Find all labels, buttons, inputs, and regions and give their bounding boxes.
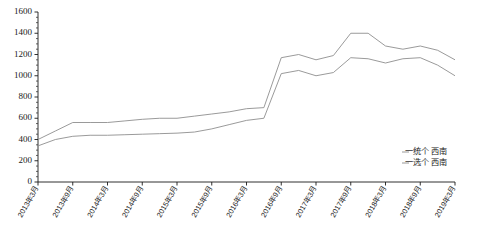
x-tick-label: 2013年9月 [50, 185, 75, 219]
y-tick-label: 600 [19, 112, 33, 122]
chart-canvas: 16001400120010008006004002000 2013年3月201… [0, 0, 491, 249]
series-lines [38, 33, 455, 146]
x-axis: 2013年3月2013年9月2014年3月2014年9月2015年3月2015年… [16, 182, 458, 219]
y-axis: 16001400120010008006004002000 [14, 6, 38, 186]
x-tick-label: 2018年9月 [398, 185, 423, 219]
x-tick-label: 2017年3月 [294, 185, 319, 219]
x-tick-label: 2015年3月 [155, 185, 180, 219]
x-tick-label: 2017年9月 [328, 185, 353, 219]
x-tick-label: 2014年3月 [85, 185, 110, 219]
x-tick-label: 2016年9月 [259, 185, 284, 219]
legend-label-0: 一统个 西南 [405, 146, 447, 156]
x-tick-label: 2018年3月 [363, 185, 388, 219]
y-tick-label: 1000 [14, 70, 33, 80]
chart-legend: 一统个 西南一选个 西南 [402, 146, 447, 167]
series-line-0 [38, 33, 455, 139]
y-tick-label: 0 [28, 176, 33, 186]
y-tick-label: 800 [19, 91, 33, 101]
legend-label-1: 一选个 西南 [405, 157, 447, 167]
y-tick-label: 1200 [14, 49, 33, 59]
series-line-1 [38, 58, 455, 146]
x-tick-label: 2016年3月 [224, 185, 249, 219]
y-tick-label: 1400 [14, 27, 33, 37]
x-tick-label: 2014年9月 [120, 185, 145, 219]
x-tick-label: 2015年9月 [189, 185, 214, 219]
y-tick-label: 200 [19, 155, 33, 165]
x-tick-label: 2013年3月 [16, 185, 41, 219]
y-tick-label: 400 [19, 134, 33, 144]
line-chart: 16001400120010008006004002000 2013年3月201… [0, 0, 491, 249]
y-tick-label: 1600 [14, 6, 33, 16]
x-tick-label: 2019年3月 [433, 185, 458, 219]
